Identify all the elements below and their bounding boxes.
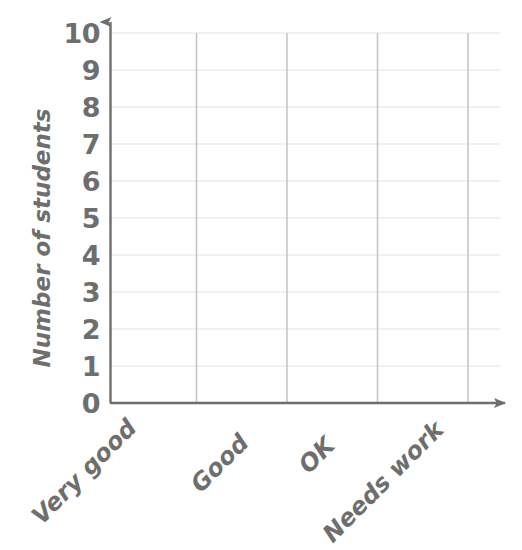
y-tick-5: 5 — [54, 205, 100, 232]
y-tick-6: 6 — [54, 168, 100, 195]
y-tick-8: 8 — [54, 94, 100, 121]
y-tick-7: 7 — [54, 131, 100, 158]
y-tick-0: 0 — [54, 390, 100, 417]
y-tick-10: 10 — [54, 20, 100, 47]
y-tick-4: 4 — [54, 242, 100, 269]
bar-chart-figure: 10 9 8 7 6 5 4 3 2 1 0 Number of student… — [0, 0, 522, 550]
y-axis-title: Number of students — [29, 108, 55, 368]
y-tick-3: 3 — [54, 279, 100, 306]
y-tick-2: 2 — [54, 316, 100, 343]
horizontal-gridlines — [111, 33, 500, 366]
y-tick-9: 9 — [54, 57, 100, 84]
y-tick-1: 1 — [54, 353, 100, 380]
